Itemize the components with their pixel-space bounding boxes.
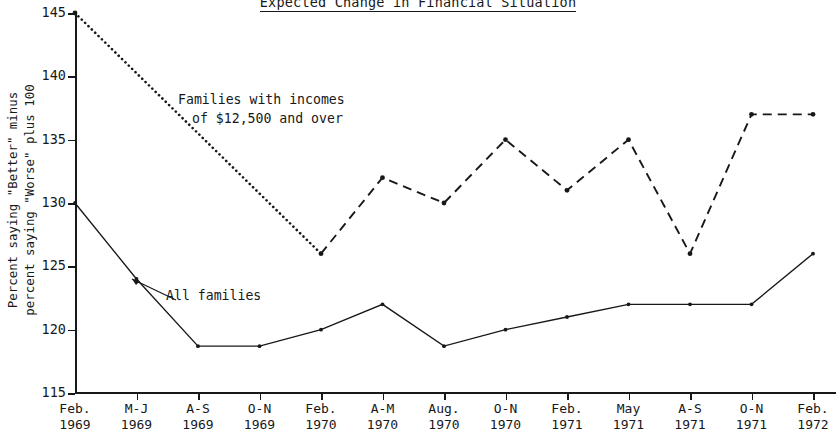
data-point-all-families — [565, 315, 569, 319]
data-point-all-families — [504, 328, 508, 332]
series-high-income-dotted-segment — [75, 13, 321, 254]
data-point-all-families — [442, 344, 446, 348]
chart-root: Expected Change in Financial Situation P… — [0, 0, 836, 432]
data-point-high-income — [73, 11, 78, 16]
annotation-high-income: Families with incomes of $12,500 and ove… — [178, 90, 345, 128]
annotation-all-families: All families — [166, 286, 261, 305]
data-point-high-income — [503, 137, 508, 142]
data-point-all-families — [811, 252, 815, 256]
data-point-all-families — [381, 302, 385, 306]
data-point-all-families — [319, 328, 323, 332]
data-point-all-families — [258, 344, 262, 348]
data-point-high-income — [811, 112, 816, 117]
data-point-high-income — [749, 112, 754, 117]
annotation-high-income-line2: of $12,500 and over — [178, 109, 345, 128]
annotation-all-families-text: All families — [166, 288, 261, 303]
series-high-income-dashed-segment — [321, 114, 813, 253]
data-point-all-families — [688, 302, 692, 306]
series-overlay — [0, 0, 836, 432]
data-point-all-families — [627, 302, 631, 306]
data-point-all-families — [73, 201, 77, 205]
data-point-high-income — [688, 251, 693, 256]
data-point-all-families — [196, 344, 200, 348]
data-point-all-families — [750, 302, 754, 306]
data-point-high-income — [319, 251, 324, 256]
data-point-high-income — [442, 201, 447, 206]
data-point-high-income — [380, 175, 385, 180]
data-point-high-income — [626, 137, 631, 142]
data-point-high-income — [565, 188, 570, 193]
annotation-high-income-line1: Families with incomes — [178, 92, 345, 107]
